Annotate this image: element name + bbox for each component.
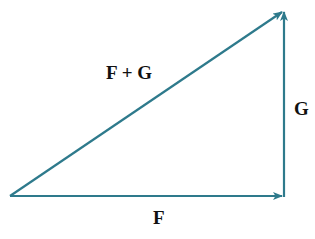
vector-f-label: F xyxy=(153,208,165,227)
vector-sum-arrow xyxy=(10,12,282,196)
vector-g-label: G xyxy=(294,99,309,118)
vector-sum-label: F + G xyxy=(106,63,152,82)
vector-diagram xyxy=(0,0,315,239)
